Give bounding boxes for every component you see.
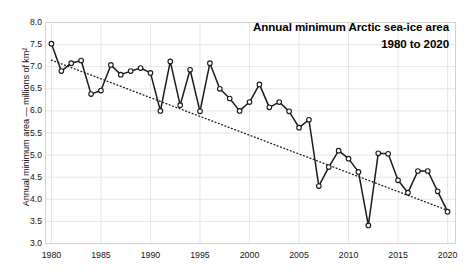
x-tick-label: 2010 [329,251,369,260]
x-tick-label: 1980 [31,251,71,260]
x-tick-label: 2020 [428,251,467,260]
chart-title-line-2: 1980 to 2020 [253,37,449,50]
x-tick-label: 2000 [230,251,270,260]
chart-title: Annual minimum Arctic sea-ice area 1980 … [253,20,449,50]
x-tick-label: 1990 [130,251,170,260]
x-tick-label: 2005 [279,251,319,260]
x-tick-label: 2015 [378,251,418,260]
chart-title-line-1: Annual minimum Arctic sea-ice area [253,20,449,33]
x-tick-label: 1985 [81,251,121,260]
x-tick-label: 1995 [180,251,220,260]
chart-figure: Annual minimum area — millions of km² 3.… [0,0,467,276]
